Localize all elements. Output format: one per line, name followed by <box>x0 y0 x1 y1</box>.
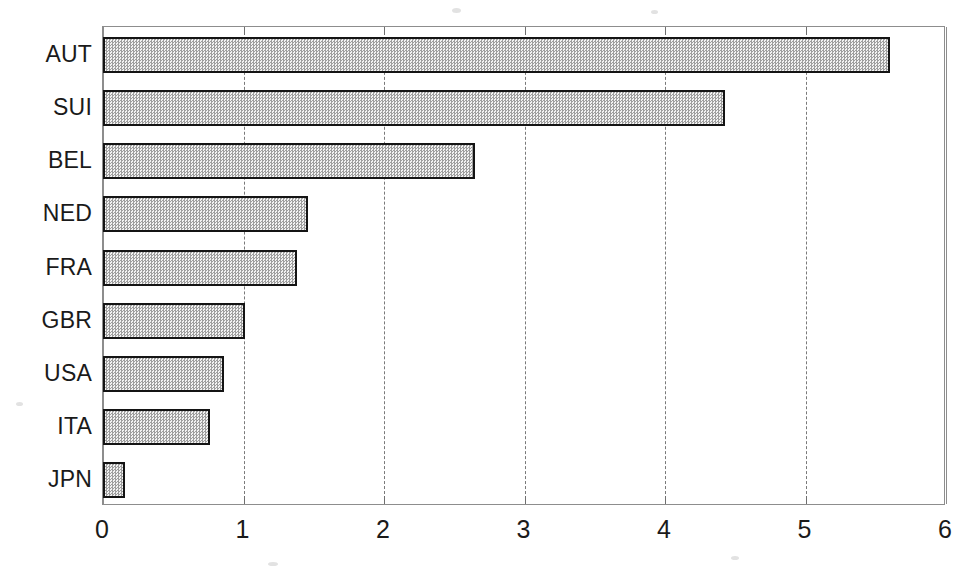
bar-aut <box>103 37 890 73</box>
y-axis-label-ned: NED <box>0 195 92 231</box>
tick-mark-top-1 <box>244 27 245 35</box>
y-axis-label-sui: SUI <box>0 89 92 125</box>
tick-mark-top-4 <box>665 27 666 35</box>
scan-speckle <box>452 8 461 13</box>
x-axis-label-0: 0 <box>95 515 109 544</box>
scan-speckle <box>268 562 278 566</box>
y-axis-label-usa: USA <box>0 355 92 391</box>
x-axis-label-5: 5 <box>798 515 812 544</box>
bar-jpn <box>103 462 125 498</box>
tick-mark-top-5 <box>806 27 807 35</box>
bars <box>103 27 944 504</box>
tick-mark-top-3 <box>525 27 526 35</box>
y-axis-label-jpn: JPN <box>0 461 92 497</box>
x-axis-label-4: 4 <box>657 515 671 544</box>
bar-fra <box>103 250 297 286</box>
bar-gbr <box>103 303 245 339</box>
tick-mark-bottom-2 <box>384 496 385 504</box>
x-axis-label-3: 3 <box>517 515 531 544</box>
bar-ned <box>103 196 308 232</box>
y-axis-label-fra: FRA <box>0 249 92 285</box>
bar-sui <box>103 90 725 126</box>
y-axis-label-bel: BEL <box>0 142 92 178</box>
x-axis-label-6: 6 <box>938 515 952 544</box>
x-axis-label-2: 2 <box>376 515 390 544</box>
y-axis-labels: AUTSUIBELNEDFRAGBRUSAITAJPN <box>0 26 92 505</box>
bar-chart: AUTSUIBELNEDFRAGBRUSAITAJPN 0123456 <box>0 0 978 586</box>
bar-bel <box>103 143 475 179</box>
x-axis-label-1: 1 <box>236 515 250 544</box>
tick-mark-bottom-5 <box>806 496 807 504</box>
plot-area <box>102 26 945 505</box>
y-axis-label-ita: ITA <box>0 408 92 444</box>
tick-mark-bottom-1 <box>244 496 245 504</box>
y-axis-label-gbr: GBR <box>0 302 92 338</box>
tick-mark-bottom-4 <box>665 496 666 504</box>
bar-ita <box>103 409 210 445</box>
scan-speckle <box>651 10 658 14</box>
tick-mark-top-2 <box>384 27 385 35</box>
tick-mark-bottom-3 <box>525 496 526 504</box>
gridline-x-6 <box>946 27 947 504</box>
y-axis-label-aut: AUT <box>0 36 92 72</box>
scan-speckle <box>731 556 739 560</box>
bar-usa <box>103 356 224 392</box>
x-axis-tick-labels: 0123456 <box>0 515 978 555</box>
